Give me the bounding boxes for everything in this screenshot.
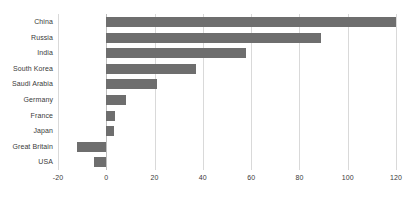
bar[interactable] [106,33,321,43]
category-label: France [31,108,53,124]
bar[interactable] [106,48,246,58]
bar-row [58,76,396,92]
plot-area [58,14,396,170]
bar-row [58,123,396,139]
bar-row [58,45,396,61]
category-label: South Korea [13,61,53,77]
bar-row [58,154,396,170]
x-tick-label: 60 [247,174,255,181]
category-label: Saudi Arabia [12,76,53,92]
x-axis-tick-labels: -20020406080100120 [58,174,396,188]
bar-row [58,30,396,46]
bar-row [58,14,396,30]
x-tick-label: 80 [295,174,303,181]
bar[interactable] [106,17,396,27]
x-tick-label: 100 [342,174,354,181]
bar[interactable] [106,79,157,89]
bar-row [58,92,396,108]
bar-series [58,14,396,170]
category-axis-labels: ChinaRussiaIndiaSouth KoreaSaudi ArabiaG… [0,14,53,170]
category-label: Germany [24,92,54,108]
x-tick-label: 40 [199,174,207,181]
category-label: Great Britain [12,139,53,155]
bar[interactable] [106,95,125,105]
bar-chart: ChinaRussiaIndiaSouth KoreaSaudi ArabiaG… [0,0,411,199]
category-label: China [34,14,53,30]
bar[interactable] [106,126,113,136]
bar-row [58,108,396,124]
category-label: Japan [33,123,53,139]
x-tick-label: -20 [53,174,63,181]
gridline [396,14,397,170]
category-label: USA [38,154,53,170]
bar[interactable] [106,64,195,74]
category-label: Russia [31,30,53,46]
bar[interactable] [77,142,106,152]
category-label: India [37,45,53,61]
x-tick-label: 0 [104,174,108,181]
x-tick-label: 20 [151,174,159,181]
bar[interactable] [94,157,106,167]
x-tick-label: 120 [390,174,402,181]
bar-row [58,61,396,77]
bar-row [58,139,396,155]
bar[interactable] [106,111,114,121]
